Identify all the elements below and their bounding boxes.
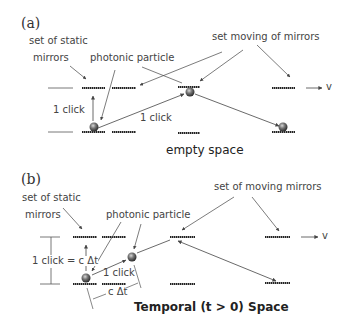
- photonic-particle-label: photonic particle: [106, 210, 190, 220]
- diagonal-path-arrow: [178, 241, 276, 281]
- panel-b-tag: (b): [21, 172, 41, 186]
- photonic-particle: [186, 88, 195, 97]
- pointer-particle: [101, 70, 115, 120]
- vertical-click-label: 1 click = c Δt: [32, 256, 98, 266]
- static-mirrors-label-line1: set of static: [22, 193, 81, 203]
- diagonal-click-label: 1 click: [140, 113, 172, 123]
- moving-mirrors-label: set of moving mirrors: [214, 182, 322, 192]
- light-clock-diagram: [0, 0, 351, 329]
- panel-a-caption: empty space: [166, 144, 244, 156]
- pointer-moving-mirror: [257, 45, 290, 77]
- photonic-particle: [90, 123, 99, 132]
- pointer-particle: [142, 67, 182, 83]
- dimension-line: [126, 283, 138, 288]
- photonic-particle-label: photonic particle: [90, 53, 174, 63]
- diagonal-path-arrow: [137, 240, 170, 253]
- static-mirrors-label-line1: set of static: [29, 36, 88, 46]
- moving-mirrors-label: set moving of mirrors: [212, 32, 320, 42]
- photonic-particle: [279, 123, 288, 132]
- velocity-label: v: [322, 231, 328, 241]
- horizontal-distance-label: c Δt: [108, 287, 127, 297]
- pointer-moving-mirror: [252, 197, 279, 231]
- vertical-click-label: 1 click: [53, 105, 85, 115]
- panel-b-caption: Temporal (t > 0) Space: [134, 301, 289, 313]
- static-mirrors-label-line2: mirrors: [33, 53, 69, 63]
- pointer-static-mirrors: [70, 66, 86, 79]
- dimension-line: [87, 288, 93, 309]
- diagonal-click-label: 1 click: [103, 268, 135, 278]
- photonic-particle: [128, 253, 137, 262]
- photonic-particle: [82, 274, 91, 283]
- pointer-moving-mirror: [200, 50, 243, 81]
- pointer-static-mirrors: [63, 208, 82, 229]
- panel-a-tag: (a): [21, 16, 40, 30]
- velocity-label: v: [326, 82, 332, 92]
- diagonal-path-arrow: [195, 94, 279, 126]
- dimension-line: [93, 294, 106, 299]
- static-mirrors-label-line2: mirrors: [25, 210, 61, 220]
- pointer-particle: [134, 224, 141, 249]
